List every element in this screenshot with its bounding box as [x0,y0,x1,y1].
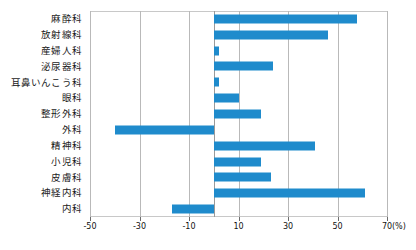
x-tick-mark [90,217,91,221]
bar-row [90,74,387,90]
bar-row [90,201,387,217]
bar-row [90,59,387,75]
x-axis-unit-label: (%) [392,222,406,231]
gridline [387,11,388,217]
category-label: 放射線科 [0,27,86,43]
x-tick-mark [189,217,190,221]
bars-layer [90,11,387,217]
x-tick-label: 50 [332,222,342,231]
bar-row [90,122,387,138]
bar-row [90,154,387,170]
plot-area [90,11,387,217]
bar [214,173,271,182]
category-label: 神経内科 [0,185,86,201]
bar-row [90,138,387,154]
bar [214,14,358,23]
bar-chart: 麻酔科放射線科産婦人科泌尿器科耳鼻いんこう科眼科整形外科外科精神科小児科皮膚科神… [0,0,416,250]
x-tick-mark [239,217,240,221]
x-tick-label: -10 [182,222,195,231]
x-tick-label: 10 [233,222,243,231]
bar [214,189,365,198]
category-label: 内科 [0,201,86,217]
bar [214,46,219,55]
bar-row [90,43,387,59]
category-axis: 麻酔科放射線科産婦人科泌尿器科耳鼻いんこう科眼科整形外科外科精神科小児科皮膚科神… [0,11,86,217]
x-tick-label: 70 [382,222,392,231]
x-tick-label: -50 [83,222,96,231]
x-tick-mark [387,217,388,221]
category-label: 外科 [0,122,86,138]
bar [214,109,261,118]
bar-row [90,106,387,122]
bar [214,94,239,103]
category-label: 産婦人科 [0,43,86,59]
category-label: 麻酔科 [0,11,86,27]
bar [214,157,261,166]
x-axis: -50-30-1010305070 [90,217,387,239]
bar [214,78,219,87]
bar-row [90,169,387,185]
x-tick-label: -30 [133,222,146,231]
bar-row [90,11,387,27]
bar-row [90,185,387,201]
category-label: 小児科 [0,154,86,170]
category-label: 精神科 [0,138,86,154]
bar [214,141,315,150]
bar-row [90,27,387,43]
category-label: 泌尿器科 [0,59,86,75]
bar [115,125,214,134]
x-tick-label: 30 [283,222,293,231]
bar [172,205,214,214]
bar [214,30,328,39]
category-label: 皮膚科 [0,169,86,185]
x-tick-mark [288,217,289,221]
category-label: 整形外科 [0,106,86,122]
x-tick-mark [140,217,141,221]
category-label: 眼科 [0,90,86,106]
bar [214,62,273,71]
bar-row [90,90,387,106]
category-label: 耳鼻いんこう科 [0,74,86,90]
x-tick-mark [338,217,339,221]
